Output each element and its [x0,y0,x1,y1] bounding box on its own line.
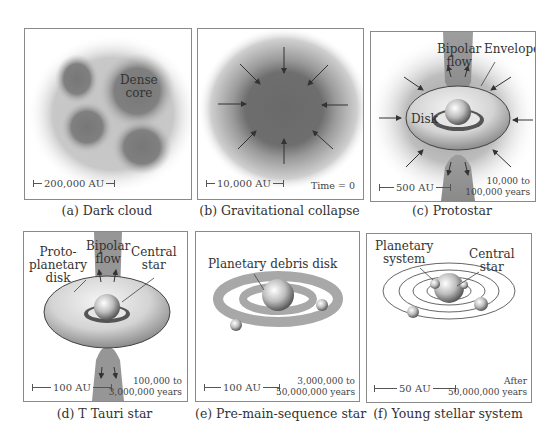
debris-disk-label: Planetary debris disk [208,258,337,271]
scale-label: 200,000 AU [42,178,106,189]
scale-bar: 100 AU [204,382,280,393]
collapse-illustration [198,29,363,199]
time-line1: 100,000 to [109,376,182,387]
scale-label: 50 AU [397,383,433,394]
time-line2: 100,000 years [465,187,530,198]
time-line2: 50,000,000 years [448,387,527,398]
caption-d: (d) T Tauri star [23,406,186,421]
time-line1: 3,000,000 to [276,376,355,387]
caption-a: (a) Dark cloud [24,203,190,218]
dark-cloud-illustration [25,29,191,199]
time-label: 10,000 to 100,000 years [465,176,530,198]
envelope-label: Envelope [484,43,536,56]
caption-e: (e) Pre-main-sequence star [195,406,358,421]
caption-f: (f) Young stellar system [366,406,530,421]
central-star-label: Central star [469,248,515,274]
bipolar-flow-line2: flow [86,253,130,266]
panel-dark-cloud: Dense core 200,000 AU [24,28,192,200]
protoplanetary-disk-label: Proto- planetary disk [29,246,87,285]
time-line1: 10,000 to [465,176,530,187]
scale-bar: 50 AU [374,383,456,394]
time-line2: 3,000,000 years [109,387,182,398]
panel-young-stellar-system: Planetary system Central star 50 AU Afte… [366,233,532,403]
scale-bar: 100 AU [32,382,112,393]
bipolar-flow-label: Bipolar flow [86,240,130,266]
panel-gravitational-collapse: 10,000 AU Time = 0 [197,28,364,200]
time-label: After 50,000,000 years [448,376,527,398]
scale-label: 10,000 AU [215,178,273,189]
time-line2: 50,000,000 years [276,387,355,398]
bipolar-flow-label: Bipolar flow [437,43,481,69]
scale-label: 100 AU [221,382,263,393]
time-label: 3,000,000 to 50,000,000 years [276,376,355,398]
dense-core-label-line2: core [120,87,158,100]
caption-c: (c) Protostar [370,203,534,218]
scale-bar: 200,000 AU [33,178,115,189]
disk-line3: disk [29,272,87,285]
panel-t-tauri-star: Proto- planetary disk Bipolar flow Centr… [23,231,188,402]
central-star-line2: star [131,259,177,272]
planetary-system-label: Planetary system [375,240,433,266]
dense-core-label: Dense core [120,74,158,100]
central-star-label: Central star [131,246,177,272]
planetary-system-line2: system [375,253,433,266]
caption-b: (b) Gravitational collapse [197,203,362,218]
scale-bar: 500 AU [379,182,451,193]
bipolar-flow-line2: flow [437,56,481,69]
time-line1: After [448,376,527,387]
time-label: Time = 0 [311,180,355,191]
panel-pre-main-sequence-star: Planetary debris disk 100 AU 3,000,000 t… [195,231,360,402]
central-star-line2: star [469,261,515,274]
disk-label: Disk [411,113,438,126]
panel-protostar: Bipolar flow Envelope Disk 500 AU 10,000… [370,31,536,202]
time-label: 100,000 to 3,000,000 years [109,376,182,398]
scale-label: 100 AU [51,382,93,393]
scale-label: 500 AU [394,182,436,193]
scale-bar: 10,000 AU [206,178,284,189]
